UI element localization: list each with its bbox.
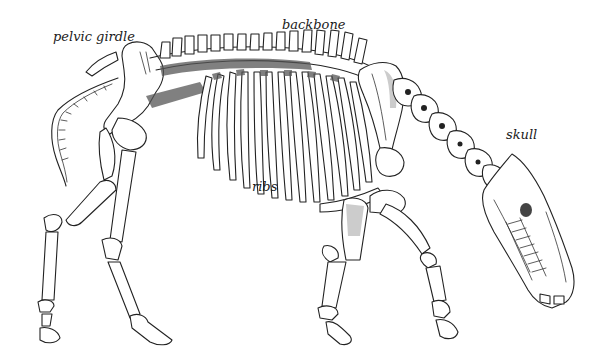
foreleg-near — [370, 148, 458, 339]
pelvic-girdle — [86, 42, 206, 134]
label-pelvic-girdle: pelvic girdle — [53, 30, 135, 43]
label-skull: skull — [506, 128, 537, 141]
skeleton-drawing — [0, 0, 592, 363]
skeleton-diagram: pelvic girdle backbone skull ribs — [0, 0, 592, 363]
label-backbone: backbone — [282, 18, 345, 31]
hind-leg-rear — [38, 128, 116, 343]
skull-drawing — [482, 154, 574, 308]
foreleg-far — [318, 198, 368, 344]
neck — [393, 78, 506, 188]
rib-cage — [197, 69, 384, 212]
label-ribs: ribs — [252, 180, 277, 193]
